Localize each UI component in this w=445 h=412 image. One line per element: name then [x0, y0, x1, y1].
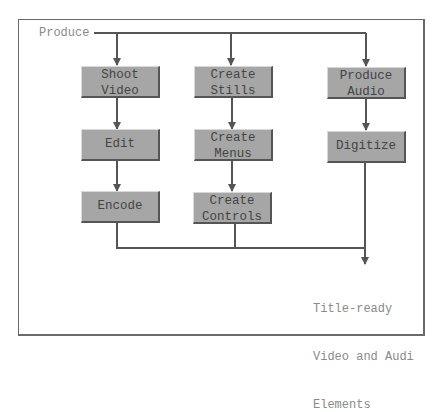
- edit-node: Edit: [81, 129, 160, 161]
- node-label-line1: Shoot: [82, 67, 158, 83]
- node-label-line1: Create: [194, 193, 270, 209]
- node-label: Encode: [97, 199, 142, 213]
- output-label-line2: Video and Audi: [313, 349, 414, 365]
- node-label-line1: Produce: [328, 68, 404, 84]
- node-label: Edit: [105, 137, 135, 151]
- create-controls-node: Create Controls: [193, 192, 272, 224]
- node-label-line2: Stills: [195, 83, 271, 98]
- output-label-line1: Title-ready: [313, 301, 414, 317]
- output-label-line3: Elements: [313, 397, 414, 412]
- node-label-line2: Menus: [195, 146, 271, 161]
- node-label-line2: Controls: [194, 209, 270, 224]
- digitize-node: Digitize: [327, 131, 406, 163]
- shoot-video-node: Shoot Video: [81, 66, 160, 98]
- node-label-line1: Create: [195, 130, 271, 146]
- output-label: Title-ready Video and Audi Elements: [313, 269, 414, 412]
- node-label-line1: Create: [195, 67, 271, 83]
- encode-node: Encode: [81, 191, 160, 223]
- node-label-line2: Video: [82, 83, 158, 98]
- produce-label: Produce: [39, 25, 89, 41]
- create-menus-node: Create Menus: [194, 129, 273, 161]
- node-label-line2: Audio: [328, 84, 404, 99]
- produce-audio-node: Produce Audio: [327, 67, 406, 99]
- create-stills-node: Create Stills: [194, 66, 273, 98]
- node-label: Digitize: [336, 139, 396, 153]
